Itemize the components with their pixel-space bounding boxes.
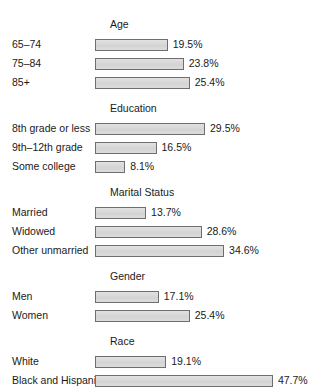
bar: [95, 58, 184, 70]
bar-value-label: 25.4%: [195, 309, 225, 322]
bar: [95, 161, 125, 173]
bar-area: 34.6%: [95, 241, 326, 260]
bar-row: 8th grade or less29.5%: [0, 119, 326, 138]
bar: [95, 291, 159, 303]
bar-area: 28.6%: [95, 222, 326, 241]
bar-area: 19.1%: [95, 352, 326, 371]
bar-row: White19.1%: [0, 352, 326, 371]
bar-row: 85+25.4%: [0, 73, 326, 92]
bar-group-title: Marital Status: [110, 186, 326, 199]
bar-row: Women25.4%: [0, 306, 326, 325]
bar-value-label: 19.1%: [171, 355, 201, 368]
bar-category-label: Some college: [0, 160, 95, 173]
bar-value-label: 16.5%: [162, 141, 192, 154]
bar: [95, 39, 168, 51]
bar-area: 23.8%: [95, 54, 326, 73]
bar: [95, 123, 205, 135]
bar-area: 13.7%: [95, 203, 326, 222]
bar-value-label: 8.1%: [130, 160, 154, 173]
bar-category-label: Women: [0, 309, 95, 322]
bar-group-title: Race: [110, 335, 326, 348]
bar-area: 16.5%: [95, 138, 326, 157]
bar-category-label: Black and Hispanic: [0, 374, 95, 387]
bar-area: 19.5%: [95, 35, 326, 54]
bar-group-title: Age: [110, 18, 326, 31]
bar-category-label: 75–84: [0, 57, 95, 70]
bar: [95, 207, 146, 219]
bar-area: 25.4%: [95, 73, 326, 92]
bar-category-label: Men: [0, 290, 95, 303]
bar: [95, 226, 202, 238]
bar-row: Married13.7%: [0, 203, 326, 222]
bar: [95, 77, 190, 89]
bar-row: Some college8.1%: [0, 157, 326, 176]
bar-value-label: 19.5%: [173, 38, 203, 51]
bar-area: 17.1%: [95, 287, 326, 306]
bar-value-label: 17.1%: [164, 290, 194, 303]
bar-value-label: 13.7%: [151, 206, 181, 219]
bar-value-label: 23.8%: [189, 57, 219, 70]
bar-group: Education8th grade or less29.5%9th–12th …: [0, 102, 326, 176]
bar-row: Other unmarried34.6%: [0, 241, 326, 260]
bar-category-label: 65–74: [0, 38, 95, 51]
bar-group-title: Education: [110, 102, 326, 115]
bar: [95, 310, 190, 322]
bar-group: RaceWhite19.1%Black and Hispanic47.7%: [0, 335, 326, 390]
bar: [95, 142, 157, 154]
bar-category-label: Other unmarried: [0, 244, 95, 257]
bar-area: 25.4%: [95, 306, 326, 325]
bar-category-label: 85+: [0, 76, 95, 89]
bar-value-label: 34.6%: [229, 244, 259, 257]
bar-row: 9th–12th grade16.5%: [0, 138, 326, 157]
bar: [95, 245, 224, 257]
bar-group: Marital StatusMarried13.7%Widowed28.6%Ot…: [0, 186, 326, 260]
bar-group: Age65–7419.5%75–8423.8%85+25.4%: [0, 18, 326, 92]
bar-value-label: 25.4%: [195, 76, 225, 89]
bar-value-label: 47.7%: [278, 374, 308, 387]
bar: [95, 375, 273, 387]
bar-area: 29.5%: [95, 119, 326, 138]
bar-value-label: 28.6%: [207, 225, 237, 238]
bar-row: Black and Hispanic47.7%: [0, 371, 326, 390]
bar-area: 47.7%: [95, 371, 326, 390]
bar-category-label: Married: [0, 206, 95, 219]
bar-row: Men17.1%: [0, 287, 326, 306]
bar-category-label: 9th–12th grade: [0, 141, 95, 154]
bar-group-title: Gender: [110, 270, 326, 283]
bar-row: 75–8423.8%: [0, 54, 326, 73]
bar-row: Widowed28.6%: [0, 222, 326, 241]
bar-value-label: 29.5%: [210, 122, 240, 135]
bar-row: 65–7419.5%: [0, 35, 326, 54]
bar-category-label: Widowed: [0, 225, 95, 238]
bar: [95, 356, 166, 368]
bar-area: 8.1%: [95, 157, 326, 176]
bar-category-label: White: [0, 355, 95, 368]
bar-group: GenderMen17.1%Women25.4%: [0, 270, 326, 325]
bar-category-label: 8th grade or less: [0, 122, 95, 135]
